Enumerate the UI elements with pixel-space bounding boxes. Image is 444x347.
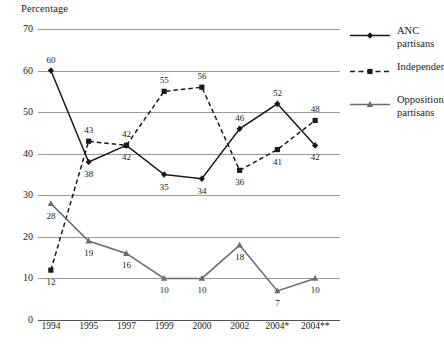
- data-label-0-5: 46: [235, 113, 244, 122]
- legend-item-0[interactable]: ANC partisans: [349, 25, 444, 50]
- line-chart: Percentage 010203040506070 1994199519971…: [0, 0, 444, 347]
- series-1-marker-6: [275, 147, 280, 152]
- legend: ANC partisansIndependentsOpposition part…: [349, 25, 444, 130]
- x-tick-1999: 1999: [155, 321, 174, 332]
- y-axis-title: Percentage: [21, 3, 68, 14]
- series-1-marker-4: [199, 85, 204, 90]
- data-label-0-7: 42: [311, 153, 320, 162]
- series-0-marker-1: [86, 159, 92, 166]
- data-label-1-6: 41: [273, 157, 282, 166]
- series-1-marker-0: [48, 268, 53, 273]
- legend-swatch-triangle-icon: [349, 96, 391, 107]
- legend-swatch-diamond-icon: [349, 27, 391, 38]
- data-label-2-6: 7: [275, 298, 280, 307]
- data-label-1-1: 43: [84, 126, 93, 135]
- data-label-1-0: 12: [46, 278, 55, 287]
- data-label-2-4: 10: [197, 286, 206, 295]
- legend-item-2[interactable]: Opposition partisans: [349, 94, 444, 119]
- data-label-1-3: 55: [160, 76, 169, 85]
- x-tick-2004star: 2004*: [266, 321, 290, 332]
- y-tick-10: 10: [11, 273, 33, 283]
- series-2-marker-5: [236, 242, 242, 248]
- data-label-2-3: 10: [160, 286, 169, 295]
- plot-area: 010203040506070 199419951997199920002002…: [38, 29, 340, 320]
- x-tick-2004starstar: 2004**: [301, 321, 330, 332]
- series-1-marker-1: [86, 139, 91, 144]
- y-tick-20: 20: [11, 232, 33, 242]
- series-1-marker-3: [162, 89, 167, 94]
- data-label-0-1: 38: [84, 170, 93, 179]
- y-tick-60: 60: [11, 66, 33, 76]
- series-2-marker-7: [312, 275, 318, 281]
- y-tick-0: 0: [11, 315, 33, 325]
- y-tick-40: 40: [11, 149, 33, 159]
- footnote: [120, 337, 360, 347]
- data-label-0-2: 42: [122, 153, 131, 162]
- data-label-1-4: 56: [197, 72, 206, 81]
- data-label-0-0: 60: [46, 55, 55, 64]
- data-label-2-0: 28: [46, 211, 55, 220]
- x-tick-2000: 2000: [192, 321, 211, 332]
- data-label-1-5: 36: [235, 178, 244, 187]
- legend-label-2: Opposition partisans: [397, 94, 444, 119]
- y-tick-30: 30: [11, 190, 33, 200]
- data-label-2-7: 10: [311, 286, 320, 295]
- x-tick-1997: 1997: [117, 321, 136, 332]
- data-label-1-2: 42: [122, 130, 131, 139]
- legend-item-1[interactable]: Independents: [349, 61, 444, 83]
- data-label-0-4: 34: [197, 186, 206, 195]
- data-label-0-6: 52: [273, 88, 282, 97]
- series-2-marker-0: [48, 200, 54, 206]
- y-tick-50: 50: [11, 107, 33, 117]
- series-0-marker-0: [48, 67, 54, 74]
- legend-label-1: Independents: [397, 61, 444, 74]
- series-1-marker-2: [124, 143, 129, 148]
- series-1-marker-5: [237, 168, 242, 173]
- data-label-2-5: 18: [235, 253, 244, 262]
- data-label-1-7: 48: [311, 105, 320, 114]
- x-tick-1994: 1994: [41, 321, 60, 332]
- y-tick-70: 70: [11, 24, 33, 34]
- legend-swatch-square-icon: [349, 63, 391, 74]
- legend-label-0: ANC partisans: [397, 25, 444, 50]
- data-label-2-2: 16: [122, 261, 131, 270]
- series-1-marker-7: [313, 118, 318, 123]
- data-label-2-1: 19: [84, 249, 93, 258]
- data-label-0-3: 35: [160, 182, 169, 191]
- x-tick-2002: 2002: [230, 321, 249, 332]
- x-tick-1995: 1995: [79, 321, 98, 332]
